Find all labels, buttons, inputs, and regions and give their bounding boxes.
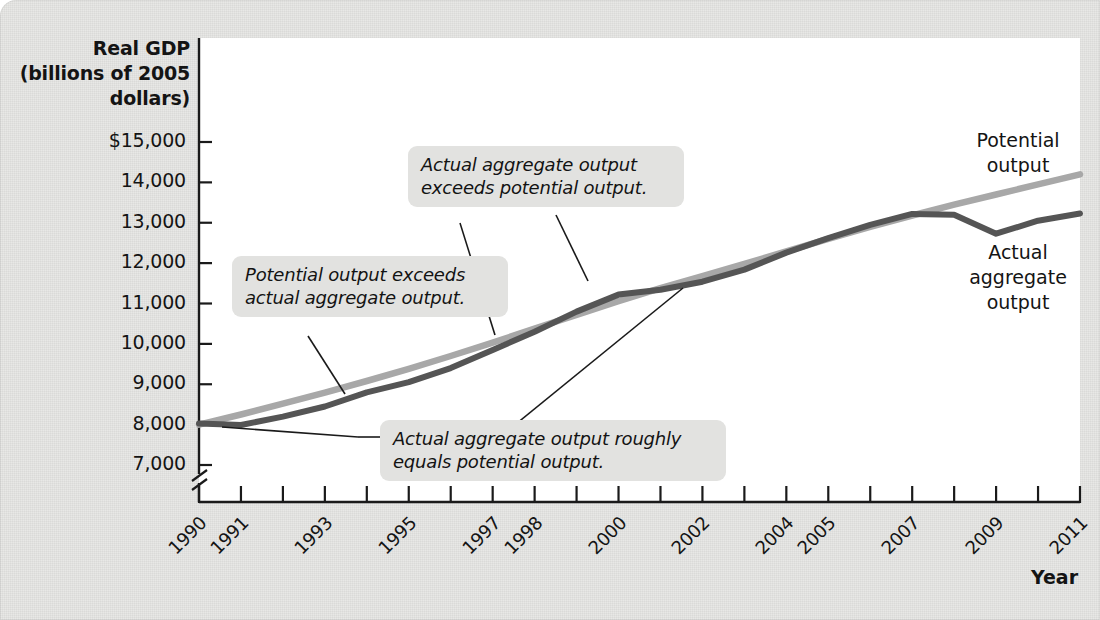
y-tick-label: 14,000 <box>64 169 186 191</box>
series-label-potential-output: Potential output <box>952 128 1084 178</box>
y-tick-label: 13,000 <box>64 210 186 232</box>
y-tick-label: $15,000 <box>64 129 186 151</box>
y-tick-label: 12,000 <box>64 250 186 272</box>
y-tick-label: 8,000 <box>64 412 186 434</box>
series-label-actual-aggregate-output: Actual aggregate output <box>952 240 1084 315</box>
y-tick-label: 11,000 <box>64 291 186 313</box>
annotation-potential-exceeds-actual: Potential output exceeds actual aggregat… <box>232 256 508 317</box>
x-axis-title: Year <box>1031 566 1078 588</box>
annotation-actual-exceeds-potential: Actual aggregate output exceeds potentia… <box>408 146 684 207</box>
annotation-actual-equals-potential: Actual aggregate output roughly equals p… <box>380 420 726 481</box>
y-tick-label: 9,000 <box>64 371 186 393</box>
figure-container: Real GDP (billions of 2005 dollars) $15,… <box>0 0 1100 620</box>
y-tick-label: 7,000 <box>64 452 186 474</box>
y-tick-label: 10,000 <box>64 331 186 353</box>
